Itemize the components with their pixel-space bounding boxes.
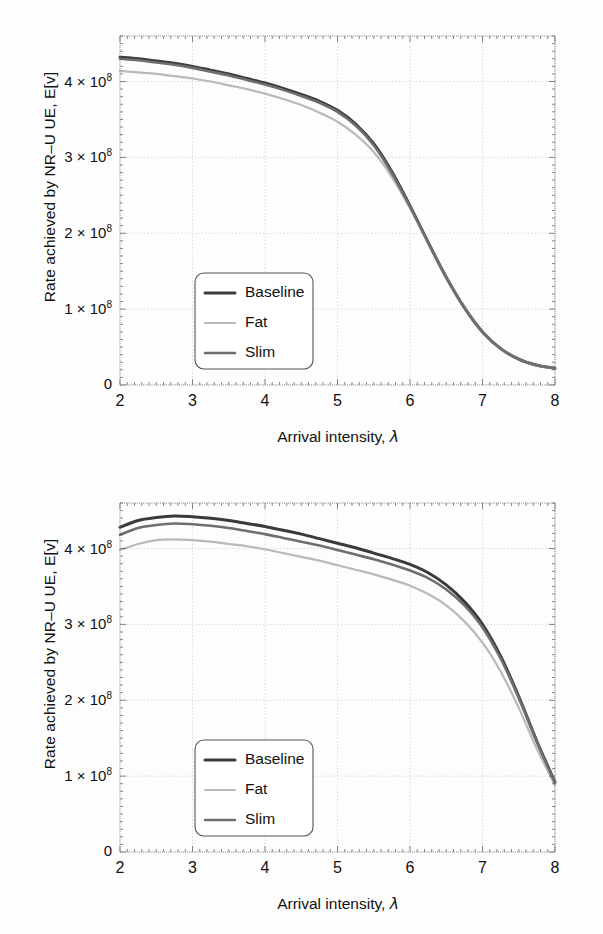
x-tick-label: 6: [390, 859, 430, 877]
x-tick-label: 6: [390, 392, 430, 410]
gridlines: [120, 503, 555, 852]
x-tick-label: 8: [535, 392, 575, 410]
legend-label-slim: Slim: [245, 343, 275, 361]
x-tick-label: 3: [173, 859, 213, 877]
y-tick-label: 3 × 108: [12, 147, 112, 165]
legend-label-fat: Fat: [245, 313, 267, 331]
y-tick-label: 1 × 108: [12, 766, 112, 784]
figure-page: Rate achieved by NR–U UE, E[v] Arrival i…: [0, 0, 603, 934]
series-line-baseline: [120, 516, 555, 782]
x-tick-label: 7: [463, 392, 503, 410]
y-tick-label: 3 × 108: [12, 614, 112, 632]
y-tick-label: 4 × 108: [12, 539, 112, 557]
lambda-symbol: λ: [390, 895, 399, 913]
x-tick-label: 4: [245, 859, 285, 877]
x-tick-label: 3: [173, 392, 213, 410]
y-tick-label: 0: [12, 842, 112, 859]
gridlines: [120, 36, 555, 385]
legend-label-slim: Slim: [245, 810, 275, 828]
upper-chart-panel: Rate achieved by NR–U UE, E[v] Arrival i…: [0, 0, 603, 467]
x-tick-label: 4: [245, 392, 285, 410]
x-tick-label: 7: [463, 859, 503, 877]
lambda-symbol: λ: [390, 428, 399, 446]
x-tick-label: 5: [318, 392, 358, 410]
legend-label-baseline: Baseline: [245, 283, 304, 301]
x-tick-label: 5: [318, 859, 358, 877]
x-axis-title-text: Arrival intensity,: [277, 895, 390, 912]
y-tick-label: 2 × 108: [12, 690, 112, 708]
x-axis-title-text: Arrival intensity,: [277, 428, 390, 445]
lower-chart-panel: Rate achieved by NR–U UE, E[v] Arrival i…: [0, 467, 603, 934]
x-tick-label: 2: [100, 392, 140, 410]
y-tick-label: 0: [12, 375, 112, 392]
x-tick-label: 8: [535, 859, 575, 877]
y-tick-label: 4 × 108: [12, 72, 112, 90]
y-tick-label: 1 × 108: [12, 299, 112, 317]
x-axis-title: Arrival intensity, λ: [118, 428, 558, 446]
x-axis-title: Arrival intensity, λ: [118, 895, 558, 913]
y-tick-label: 2 × 108: [12, 223, 112, 241]
legend-label-fat: Fat: [245, 780, 267, 798]
x-tick-label: 2: [100, 859, 140, 877]
legend-label-baseline: Baseline: [245, 750, 304, 768]
